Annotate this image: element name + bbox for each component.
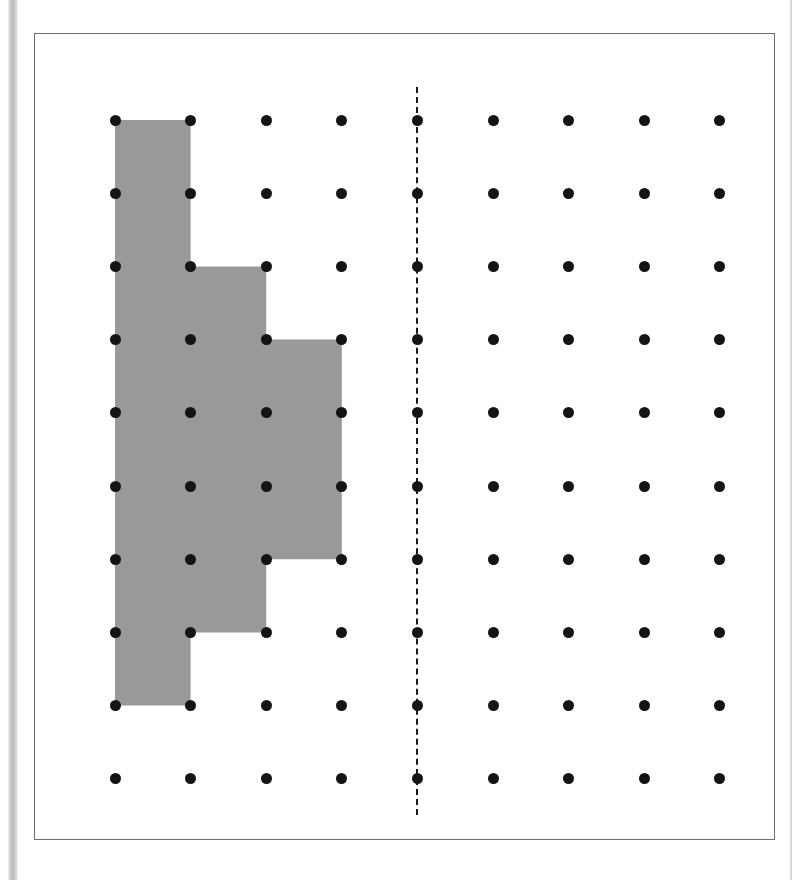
lattice-dot-c6-r2 bbox=[488, 188, 499, 199]
lattice-dot-c3-r1 bbox=[261, 115, 272, 126]
lattice-dot-c9-r7 bbox=[714, 554, 725, 565]
lattice-dot-c3-r5 bbox=[261, 407, 272, 418]
lattice-dot-c4-r7 bbox=[336, 554, 347, 565]
lattice-dot-c8-r5 bbox=[639, 407, 650, 418]
lattice-dot-c6-r8 bbox=[488, 627, 499, 638]
lattice-dot-c8-r9 bbox=[639, 700, 650, 711]
lattice-dot-c1-r10 bbox=[110, 773, 121, 784]
lattice-dot-c8-r4 bbox=[639, 334, 650, 345]
lattice-dot-c5-r6 bbox=[412, 481, 423, 492]
shaded-staircase-polygon bbox=[115, 120, 342, 706]
page-left-edge-shadow-bar bbox=[8, 0, 18, 880]
lattice-dot-c7-r6 bbox=[563, 481, 574, 492]
lattice-dot-c1-r1 bbox=[110, 115, 121, 126]
lattice-dot-c5-r2 bbox=[412, 188, 423, 199]
lattice-dot-c8-r8 bbox=[639, 627, 650, 638]
lattice-dot-c2-r2 bbox=[185, 188, 196, 199]
lattice-dot-c7-r3 bbox=[563, 261, 574, 272]
lattice-dot-c3-r6 bbox=[261, 481, 272, 492]
lattice-dot-c6-r5 bbox=[488, 407, 499, 418]
lattice-dot-c5-r8 bbox=[412, 627, 423, 638]
lattice-dot-c8-r3 bbox=[639, 261, 650, 272]
lattice-dot-c7-r2 bbox=[563, 188, 574, 199]
lattice-dot-c1-r8 bbox=[110, 627, 121, 638]
lattice-dot-c1-r2 bbox=[110, 188, 121, 199]
lattice-dot-c6-r6 bbox=[488, 481, 499, 492]
lattice-dot-c4-r6 bbox=[336, 481, 347, 492]
lattice-dot-c3-r8 bbox=[261, 627, 272, 638]
page-canvas bbox=[0, 0, 804, 880]
lattice-dot-c8-r10 bbox=[639, 773, 650, 784]
lattice-dot-c3-r9 bbox=[261, 700, 272, 711]
lattice-dot-c9-r2 bbox=[714, 188, 725, 199]
lattice-dot-c1-r3 bbox=[110, 261, 121, 272]
lattice-dot-c8-r7 bbox=[639, 554, 650, 565]
lattice-dot-c8-r2 bbox=[639, 188, 650, 199]
lattice-dot-c8-r6 bbox=[639, 481, 650, 492]
lattice-dot-c9-r6 bbox=[714, 481, 725, 492]
lattice-dot-c4-r1 bbox=[336, 115, 347, 126]
lattice-dot-c3-r4 bbox=[261, 334, 272, 345]
lattice-dot-c2-r1 bbox=[185, 115, 196, 126]
lattice-dot-c2-r6 bbox=[185, 481, 196, 492]
lattice-dot-c9-r1 bbox=[714, 115, 725, 126]
lattice-dot-c6-r9 bbox=[488, 700, 499, 711]
lattice-dot-c3-r2 bbox=[261, 188, 272, 199]
lattice-dot-c5-r4 bbox=[412, 334, 423, 345]
lattice-dot-c7-r7 bbox=[563, 554, 574, 565]
lattice-dot-c1-r6 bbox=[110, 481, 121, 492]
lattice-dot-c3-r10 bbox=[261, 773, 272, 784]
lattice-dot-c2-r3 bbox=[185, 261, 196, 272]
lattice-dot-c8-r1 bbox=[639, 115, 650, 126]
lattice-dot-c1-r9 bbox=[110, 700, 121, 711]
lattice-dot-c1-r4 bbox=[110, 334, 121, 345]
lattice-dot-c5-r3 bbox=[412, 261, 423, 272]
lattice-dot-c5-r1 bbox=[412, 115, 423, 126]
lattice-dot-c7-r1 bbox=[563, 115, 574, 126]
page-right-edge-rule bbox=[790, 0, 792, 880]
lattice-dot-c5-r9 bbox=[412, 700, 423, 711]
lattice-dot-c6-r3 bbox=[488, 261, 499, 272]
lattice-dot-c6-r1 bbox=[488, 115, 499, 126]
lattice-dot-c4-r2 bbox=[336, 188, 347, 199]
lattice-dot-c5-r7 bbox=[412, 554, 423, 565]
lattice-dot-c6-r7 bbox=[488, 554, 499, 565]
figure-frame bbox=[34, 33, 775, 840]
lattice-dot-c7-r8 bbox=[563, 627, 574, 638]
lattice-dot-c3-r3 bbox=[261, 261, 272, 272]
lattice-dot-c6-r10 bbox=[488, 773, 499, 784]
lattice-dot-c6-r4 bbox=[488, 334, 499, 345]
lattice-dot-c2-r7 bbox=[185, 554, 196, 565]
lattice-dot-c1-r7 bbox=[110, 554, 121, 565]
dot-lattice-plane bbox=[35, 34, 776, 841]
lattice-dot-c3-r7 bbox=[261, 554, 272, 565]
shaded-staircase-region bbox=[35, 34, 776, 841]
lattice-dot-c1-r5 bbox=[110, 407, 121, 418]
lattice-dot-c2-r8 bbox=[185, 627, 196, 638]
